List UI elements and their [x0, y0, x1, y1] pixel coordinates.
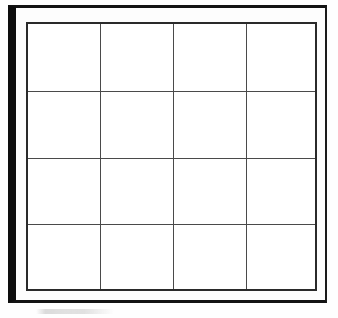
scan-smudge-artifact: [36, 309, 114, 314]
grid-cell-r3c3[interactable]: [174, 159, 247, 225]
grid-cell-r1c4[interactable]: [247, 24, 315, 92]
grid-cell-r3c4[interactable]: [247, 159, 315, 225]
grid-cell-r4c4[interactable]: [247, 225, 315, 289]
grid-cell-r3c1[interactable]: [28, 159, 101, 225]
grid-cell-r2c2[interactable]: [101, 92, 174, 159]
grid-cell-r4c3[interactable]: [174, 225, 247, 289]
grid-cell-r4c2[interactable]: [101, 225, 174, 289]
grid-cell-r4c1[interactable]: [28, 225, 101, 289]
grid-cell-r1c3[interactable]: [174, 24, 247, 92]
grid-cell-r1c1[interactable]: [28, 24, 101, 92]
grid-board[interactable]: [26, 22, 317, 291]
grid-cell-r1c2[interactable]: [101, 24, 174, 92]
grid-cell-r3c2[interactable]: [101, 159, 174, 225]
grid-cell-r2c3[interactable]: [174, 92, 247, 159]
screenshot-canvas: [0, 0, 338, 318]
grid-cell-r2c1[interactable]: [28, 92, 101, 159]
grid-cell-r2c4[interactable]: [247, 92, 315, 159]
